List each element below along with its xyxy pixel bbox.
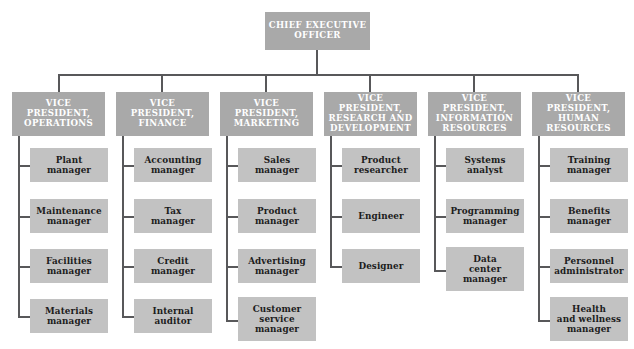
node-label: VICE PRESIDENT, RESEARCH AND DEVELOPMENT bbox=[324, 94, 417, 134]
connector-spine-information-resources bbox=[434, 136, 436, 271]
node-data-center-manager[interactable]: Data center manager bbox=[446, 247, 524, 291]
node-maintenance-manager[interactable]: Maintenance manager bbox=[30, 199, 108, 233]
connector-spine-marketing bbox=[226, 136, 228, 321]
node-accounting-manager[interactable]: Accounting manager bbox=[134, 148, 212, 182]
node-vice-president-human-resources[interactable]: VICE PRESIDENT, HUMAN RESOURCES bbox=[532, 92, 625, 136]
node-label: Materials manager bbox=[42, 306, 96, 326]
connector-drop-marketing bbox=[265, 74, 267, 92]
node-systems-analyst[interactable]: Systems analyst bbox=[446, 148, 524, 182]
node-label: VICE PRESIDENT, OPERATIONS bbox=[12, 99, 105, 129]
org-chart: CHIEF EXECUTIVE OFFICER VICE PRESIDENT, … bbox=[0, 0, 634, 349]
connector-spine-finance bbox=[122, 136, 124, 317]
node-customer-service-manager[interactable]: Customer service manager bbox=[238, 297, 316, 341]
node-label: Internal auditor bbox=[149, 306, 196, 326]
node-label: Plant manager bbox=[44, 155, 94, 175]
node-label: Systems analyst bbox=[461, 155, 508, 175]
node-tax-manager[interactable]: Tax manager bbox=[134, 199, 212, 233]
connector-spine-human-resources bbox=[538, 136, 540, 321]
node-label: Sales manager bbox=[252, 155, 302, 175]
node-label: Training manager bbox=[564, 155, 614, 175]
node-label: Product manager bbox=[252, 206, 302, 226]
node-label: Designer bbox=[355, 261, 406, 271]
node-designer[interactable]: Designer bbox=[342, 249, 420, 283]
node-programming-manager[interactable]: Programming manager bbox=[446, 199, 524, 233]
connector-drop-research-and-development bbox=[369, 74, 371, 92]
node-personnel-administrator[interactable]: Personnel administrator bbox=[550, 249, 628, 283]
node-product-manager[interactable]: Product manager bbox=[238, 199, 316, 233]
node-label: Tax manager bbox=[148, 206, 198, 226]
node-label: Accounting manager bbox=[141, 155, 204, 175]
node-label: Data center manager bbox=[460, 254, 510, 285]
node-sales-manager[interactable]: Sales manager bbox=[238, 148, 316, 182]
connector-drop-operations bbox=[58, 74, 60, 92]
node-label: CHIEF EXECUTIVE OFFICER bbox=[266, 21, 370, 41]
node-advertising-manager[interactable]: Advertising manager bbox=[238, 249, 316, 283]
node-internal-auditor[interactable]: Internal auditor bbox=[134, 299, 212, 333]
node-label: VICE PRESIDENT, INFORMATION RESOURCES bbox=[428, 94, 521, 134]
node-vice-president-finance[interactable]: VICE PRESIDENT, FINANCE bbox=[116, 92, 209, 136]
node-vice-president-marketing[interactable]: VICE PRESIDENT, MARKETING bbox=[220, 92, 313, 136]
node-engineer[interactable]: Engineer bbox=[342, 199, 420, 233]
node-chief-executive-officer[interactable]: CHIEF EXECUTIVE OFFICER bbox=[265, 12, 370, 50]
node-vice-president-operations[interactable]: VICE PRESIDENT, OPERATIONS bbox=[12, 92, 105, 136]
connector-spine-operations bbox=[18, 136, 20, 317]
connector-spine-research-and-development bbox=[330, 136, 332, 267]
node-label: Maintenance manager bbox=[33, 206, 104, 226]
node-label: Benefits manager bbox=[564, 206, 614, 226]
connector-ceo-stem bbox=[316, 50, 318, 74]
node-label: Personnel administrator bbox=[551, 256, 626, 276]
node-vice-president-information-resources[interactable]: VICE PRESIDENT, INFORMATION RESOURCES bbox=[428, 92, 521, 136]
node-facilities-manager[interactable]: Facilities manager bbox=[30, 249, 108, 283]
node-label: Facilities manager bbox=[43, 256, 95, 276]
node-plant-manager[interactable]: Plant manager bbox=[30, 148, 108, 182]
node-label: VICE PRESIDENT, HUMAN RESOURCES bbox=[532, 94, 625, 134]
node-label: VICE PRESIDENT, MARKETING bbox=[220, 99, 313, 129]
node-benefits-manager[interactable]: Benefits manager bbox=[550, 199, 628, 233]
node-label: Health and wellness manager bbox=[554, 304, 624, 335]
connector-drop-finance bbox=[161, 74, 163, 92]
node-label: Advertising manager bbox=[245, 256, 309, 276]
node-label: Engineer bbox=[355, 211, 407, 221]
connector-drop-human-resources bbox=[577, 74, 579, 92]
node-label: Customer service manager bbox=[250, 304, 305, 335]
connector-vp-bus bbox=[58, 74, 577, 76]
node-label: Credit manager bbox=[148, 256, 198, 276]
node-vice-president-research-and-development[interactable]: VICE PRESIDENT, RESEARCH AND DEVELOPMENT bbox=[324, 92, 417, 136]
node-health-and-wellness-manager[interactable]: Health and wellness manager bbox=[550, 297, 628, 341]
connector-drop-information-resources bbox=[473, 74, 475, 92]
node-label: Programming manager bbox=[447, 206, 522, 226]
node-training-manager[interactable]: Training manager bbox=[550, 148, 628, 182]
node-label: VICE PRESIDENT, FINANCE bbox=[116, 99, 209, 129]
node-credit-manager[interactable]: Credit manager bbox=[134, 249, 212, 283]
node-label: Product researcher bbox=[351, 155, 411, 175]
node-materials-manager[interactable]: Materials manager bbox=[30, 299, 108, 333]
node-product-researcher[interactable]: Product researcher bbox=[342, 148, 420, 182]
